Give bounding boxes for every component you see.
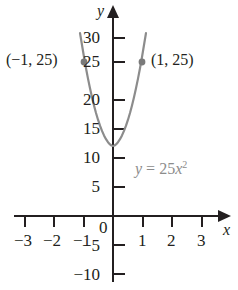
x-tick-label-1: 1	[138, 232, 147, 249]
x-tick-label-neg1: −1	[73, 232, 91, 249]
x-tick-label-neg3: −3	[14, 232, 32, 249]
x-tick-label-neg2: −2	[43, 232, 61, 249]
y-tick-label-30: 30	[74, 29, 100, 46]
equation-equals: = 25	[142, 160, 175, 177]
point-label-right: (1, 25)	[151, 52, 194, 68]
y-tick-label-5: 5	[74, 178, 100, 195]
point-label-left: (−1, 25)	[6, 52, 58, 68]
y-tick-label-10: 10	[74, 149, 100, 166]
y-tick-label-neg10: −10	[64, 266, 100, 283]
equation-exponent: 2	[182, 159, 187, 170]
y-tick-label-20: 20	[74, 91, 100, 108]
x-axis	[14, 210, 231, 227]
y-tick-label-25: 25	[74, 53, 100, 70]
x-tick-label-3: 3	[197, 232, 206, 249]
origin-label: 0	[99, 219, 108, 236]
data-point-marker-right	[139, 59, 146, 66]
graph-figure: 30 25 20 15 10 5 −5 −10 0 −3 −2 −1 1 2 3…	[0, 0, 238, 290]
x-axis-name: x	[223, 222, 230, 238]
y-tick-label-15: 15	[74, 120, 100, 137]
y-axis-name: y	[97, 3, 104, 19]
x-tick-label-2: 2	[167, 232, 176, 249]
equation-label: y = 25x2	[135, 160, 187, 177]
